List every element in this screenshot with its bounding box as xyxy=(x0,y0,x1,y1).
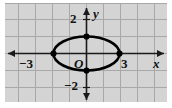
vertex-point-left xyxy=(50,50,56,56)
axes-group xyxy=(8,8,164,100)
y-axis-arrow-down xyxy=(83,93,90,100)
x-axis-arrow-left xyxy=(8,50,15,57)
vertex-point-bottom xyxy=(83,67,89,73)
x-axis-arrow-right xyxy=(157,50,164,57)
y-axis-arrow-up xyxy=(83,8,90,15)
plot-area xyxy=(0,0,172,108)
graph-figure: 2 −2 −3 3 O y x xyxy=(0,0,172,108)
vertex-point-top xyxy=(83,33,89,39)
vertex-point-right xyxy=(116,50,122,56)
